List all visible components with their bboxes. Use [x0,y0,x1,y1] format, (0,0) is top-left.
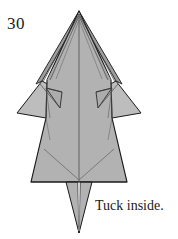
tail-left-spike [66,182,79,233]
instruction-caption: Tuck inside. [95,198,164,214]
diagram-page: 30 Tuck inside. [0,0,178,239]
tail-center-slit [78,182,80,231]
tail-right-spike [79,182,92,233]
step-number-label: 30 [7,15,25,32]
